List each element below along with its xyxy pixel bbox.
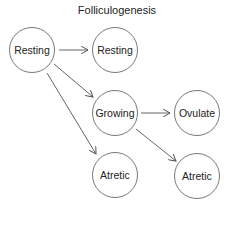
node-resting-target: Resting [92,27,138,73]
node-atretic-2: Atretic [174,153,220,199]
edge-growing-to-atretic [136,129,176,161]
node-label: Growing [95,107,134,119]
node-resting-source: Resting [9,27,55,73]
edge-resting-to-atretic [47,73,96,154]
edge-resting-to-growing [54,64,93,97]
node-ovulate: Ovulate [174,90,220,136]
node-label: Resting [14,44,50,56]
node-atretic-1: Atretic [92,152,138,198]
node-label: Resting [97,44,133,56]
node-label: Atretic [100,169,130,181]
node-label: Ovulate [179,107,215,119]
node-label: Atretic [182,170,212,182]
node-growing: Growing [92,90,138,136]
